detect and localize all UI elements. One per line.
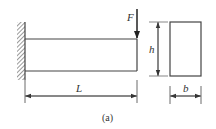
height-label: h bbox=[149, 43, 155, 55]
cross-section-rect bbox=[170, 22, 201, 76]
beam bbox=[25, 39, 137, 71]
width-label: b bbox=[183, 82, 189, 94]
width-dimension: b bbox=[170, 82, 201, 104]
figure-caption: (a) bbox=[102, 112, 113, 124]
height-dimension: h bbox=[149, 22, 168, 76]
length-label: L bbox=[75, 82, 82, 94]
cross-section bbox=[170, 22, 201, 76]
force-arrow: F bbox=[126, 9, 137, 38]
force-label: F bbox=[126, 11, 134, 23]
length-dimension: L bbox=[25, 80, 137, 103]
wall-hatch bbox=[17, 22, 25, 80]
cantilever-diagram: F L h b (a) bbox=[0, 0, 216, 129]
fixed-support bbox=[17, 22, 25, 80]
